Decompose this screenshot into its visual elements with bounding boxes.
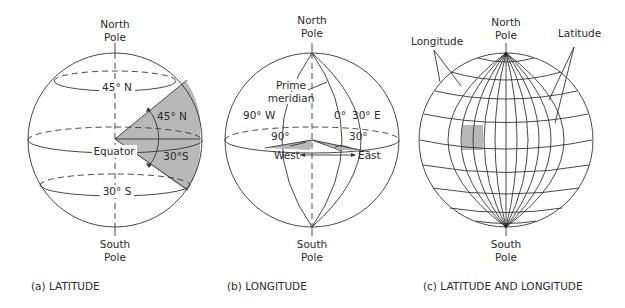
prime-meridian-label: Prime	[276, 79, 306, 91]
angle-45n-label: 45° N	[157, 110, 187, 122]
meridian-0-label: 0°	[334, 109, 346, 121]
prime-meridian-leader	[308, 82, 327, 90]
angle-30-label: 30°	[349, 130, 368, 142]
grid-cell-highlight	[462, 125, 483, 150]
prime-meridian-label: meridian	[268, 92, 315, 104]
panel-longitude: North Pole Prime meridian 90° W 0° 30° E…	[225, 14, 399, 292]
caption-longitude: (b) LONGITUDE	[227, 280, 307, 292]
west-label: West	[274, 149, 300, 161]
caption-lat-long: (c) LATITUDE AND LONGITUDE	[423, 280, 583, 292]
panel-latitude: North Pole 45° N 45° N Equator 30°S 30° …	[28, 18, 202, 292]
east-label: East	[358, 149, 381, 161]
south-pole-label: South	[100, 238, 131, 250]
meridian	[506, 53, 517, 227]
longitude-leader	[434, 50, 440, 82]
parallel-45n-label: 45° N	[102, 81, 132, 93]
north-pole-label: North	[297, 14, 326, 26]
south-pole-label: South	[491, 238, 522, 250]
north-pole-label: North	[491, 16, 520, 28]
arrow-east-icon	[351, 153, 356, 157]
equator-label: Equator	[93, 145, 135, 157]
latitude-leader	[555, 47, 574, 123]
angle-30s-label: 30°S	[163, 150, 189, 162]
latitude-label: Latitude	[558, 27, 601, 39]
arrow-west-icon	[300, 153, 305, 157]
north-pole-label: Pole	[104, 31, 126, 43]
south-pole-label: Pole	[301, 251, 323, 263]
meridian-30e-label: 30° E	[352, 109, 381, 121]
parallel-30s-label: 30° S	[103, 185, 132, 197]
meridian	[495, 53, 506, 227]
longitude-label: Longitude	[411, 35, 463, 47]
caption-latitude: (a) LATITUDE	[31, 280, 100, 292]
south-pole-label: Pole	[104, 251, 126, 263]
angle-90-label: 90°	[271, 130, 290, 142]
south-pole-label: South	[297, 238, 328, 250]
north-pole-label: North	[100, 18, 129, 30]
meridian	[506, 53, 564, 227]
south-pole-label: Pole	[495, 251, 517, 263]
meridian-90w-label: 90° W	[243, 109, 276, 121]
panel-lat-long: North Pole Longitude Latitude South Pole…	[411, 16, 601, 292]
north-pole-label: Pole	[495, 29, 517, 41]
figure-canvas: North Pole 45° N 45° N Equator 30°S 30° …	[0, 0, 625, 308]
north-pole-label: Pole	[301, 27, 323, 39]
